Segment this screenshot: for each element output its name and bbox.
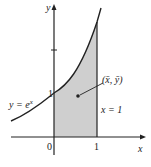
x-axis-label: x	[137, 143, 143, 154]
tick-label-y-one: 1	[48, 88, 53, 99]
centroid-diagram: y x 0 1 1 y = ex (x̄, ȳ) x = 1	[0, 0, 151, 167]
centroid-point	[76, 94, 80, 98]
curve-label: y = ex	[8, 98, 34, 110]
boundary-label: x = 1	[100, 104, 122, 115]
tick-label-origin: 0	[47, 141, 52, 152]
y-axis-label: y	[45, 2, 51, 13]
x-axis-arrow-icon	[140, 135, 146, 140]
centroid-label: (x̄, ȳ)	[102, 74, 123, 86]
tick-label-x-one: 1	[94, 141, 99, 152]
y-axis-arrow-icon	[52, 4, 57, 10]
